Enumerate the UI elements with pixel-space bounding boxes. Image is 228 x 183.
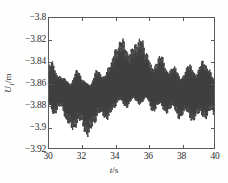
y-tick-label: −3.9 [30, 122, 46, 132]
signal-band [49, 39, 214, 138]
x-tick-label: 40 [210, 151, 219, 161]
plot-area [48, 17, 215, 149]
tick-mark [183, 18, 184, 21]
tick-mark [49, 62, 52, 63]
x-axis-title: t/s [0, 165, 228, 175]
tick-mark [116, 145, 117, 148]
y-tick-label: −3.86 [25, 78, 46, 88]
tick-mark [49, 128, 52, 129]
y-tick-label: −3.88 [25, 100, 46, 110]
tick-mark [116, 18, 117, 21]
figure-canvas: −3.8−3.82−3.84−3.86−3.88−3.9−3.92 303234… [0, 0, 228, 183]
tick-mark [49, 84, 52, 85]
y-axis-subscript: 1 [8, 83, 15, 86]
signal-trace [49, 18, 214, 148]
x-tick-label: 32 [77, 151, 86, 161]
tick-mark [149, 145, 150, 148]
tick-mark [149, 18, 150, 21]
tick-mark [49, 40, 52, 41]
tick-mark [49, 106, 52, 107]
x-tick-label: 30 [43, 151, 52, 161]
tick-mark [183, 145, 184, 148]
tick-mark [211, 84, 214, 85]
tick-mark [211, 40, 214, 41]
y-tick-label: −3.8 [30, 12, 46, 22]
x-tick-label: 38 [177, 151, 186, 161]
tick-mark [211, 62, 214, 63]
y-axis-unit: m [3, 73, 13, 80]
y-tick-label: −3.82 [25, 34, 46, 44]
y-axis-slash: / [3, 80, 13, 83]
tick-mark [82, 145, 83, 148]
tick-mark [211, 128, 214, 129]
x-tick-label: 36 [144, 151, 153, 161]
y-tick-label: −3.84 [25, 56, 46, 66]
x-tick-label: 34 [110, 151, 119, 161]
tick-mark [82, 18, 83, 21]
x-axis-unit: s [115, 165, 119, 175]
y-axis-title: U1/m [3, 73, 15, 92]
y-axis-symbol: U [3, 86, 13, 93]
tick-mark [211, 106, 214, 107]
